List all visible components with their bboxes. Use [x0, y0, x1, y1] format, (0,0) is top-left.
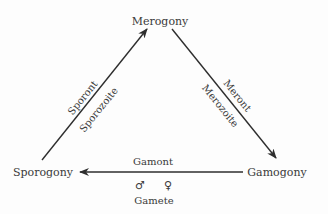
- node-sporogony: Sporogony: [13, 167, 73, 178]
- life-cycle-diagram: Merogony Gamogony Sporogony Sporont Spor…: [0, 0, 328, 214]
- node-gamogony: Gamogony: [247, 167, 306, 178]
- arrow-sporogony-to-merogony: [42, 29, 147, 160]
- arrow-merogony-to-gamogony: [172, 29, 276, 158]
- label-gamete: Gamete: [134, 196, 173, 206]
- node-merogony: Merogony: [132, 16, 189, 27]
- male-symbol-icon: ♂: [135, 180, 145, 191]
- female-symbol-icon: ♀: [164, 180, 172, 191]
- label-gamont: Gamont: [133, 157, 173, 167]
